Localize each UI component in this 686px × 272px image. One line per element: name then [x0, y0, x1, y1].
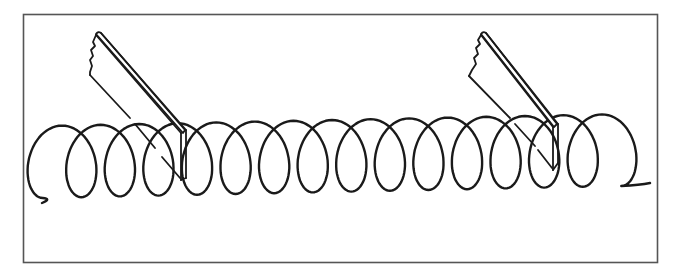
coil-blade-illustration [0, 0, 686, 272]
figure-frame [24, 15, 658, 263]
helical-coil [28, 114, 650, 203]
coil-path [28, 114, 650, 203]
right-blade [469, 32, 558, 170]
